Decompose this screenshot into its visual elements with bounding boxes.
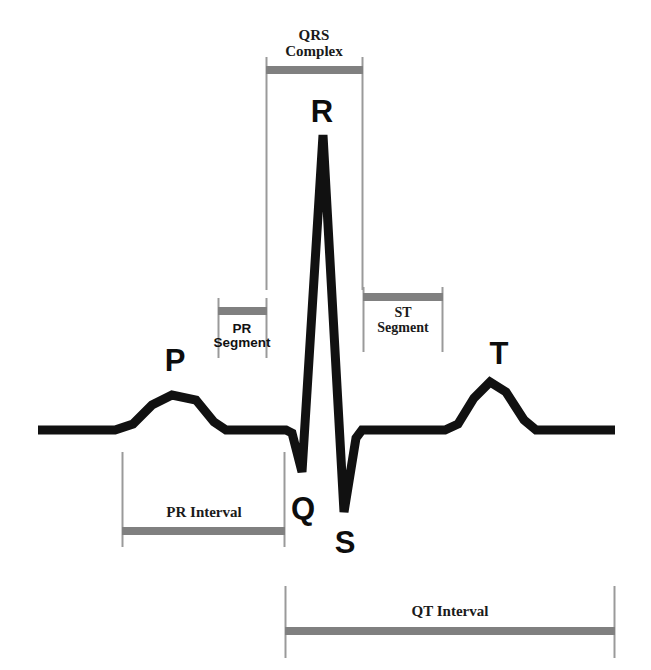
bracket-bar [266,66,363,74]
bracket-qt-interval [285,586,615,658]
ecg-diagram: P R Q S T QRS Complex PR Segment ST Segm… [0,0,651,670]
bracket-bar [285,627,615,635]
bracket-bar [363,293,443,301]
bracket-bar [122,527,285,535]
bracket-pr-segment [218,298,267,358]
ecg-canvas [0,0,651,670]
ecg-waveform-trace [38,135,615,512]
bracket-bar [218,307,267,315]
bracket-st-segment [363,287,443,352]
bracket-pr-interval [122,452,285,547]
